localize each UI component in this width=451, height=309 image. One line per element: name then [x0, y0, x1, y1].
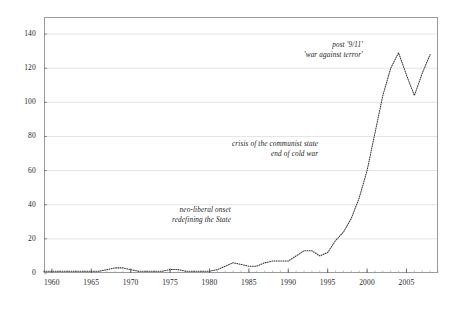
annotation-line-2: 'war against terror' — [304, 51, 363, 61]
x-tick-label-1970: 1970 — [111, 278, 151, 287]
y-tick-label-60: 60 — [2, 166, 36, 175]
x-tick-label-1990: 1990 — [268, 278, 308, 287]
x-tick-label-1975: 1975 — [150, 278, 190, 287]
y-tick-label-40: 40 — [2, 200, 36, 209]
annotation-cold-war: crisis of the communist state end of col… — [232, 140, 318, 159]
annotation-neoliberal: neo-liberal onset redefining the State — [172, 206, 231, 225]
y-tick-label-120: 120 — [2, 63, 36, 72]
y-tick-label-80: 80 — [2, 131, 36, 140]
annotation-line-1: crisis of the communist state — [232, 140, 318, 148]
x-tick-label-1965: 1965 — [71, 278, 111, 287]
chart-figure: 020406080100120140 196019651970197519801… — [0, 0, 451, 309]
x-tick-label-1980: 1980 — [189, 278, 229, 287]
y-tick-label-20: 20 — [2, 234, 36, 243]
y-tick-label-140: 140 — [2, 29, 36, 38]
x-tick-label-2000: 2000 — [347, 278, 387, 287]
x-tick-label-2005: 2005 — [386, 278, 426, 287]
annotation-line-1: post '9/11' — [332, 41, 363, 49]
annotation-line-2: redefining the State — [172, 216, 231, 226]
y-tick-label-100: 100 — [2, 97, 36, 106]
annotation-post-911: post '9/11' 'war against terror' — [304, 41, 363, 60]
x-tick-label-1995: 1995 — [308, 278, 348, 287]
annotation-line-2: end of cold war — [232, 150, 318, 160]
annotation-line-1: neo-liberal onset — [180, 206, 231, 214]
x-tick-label-1985: 1985 — [229, 278, 269, 287]
y-tick-label-0: 0 — [2, 268, 36, 277]
x-tick-label-1960: 1960 — [32, 278, 72, 287]
